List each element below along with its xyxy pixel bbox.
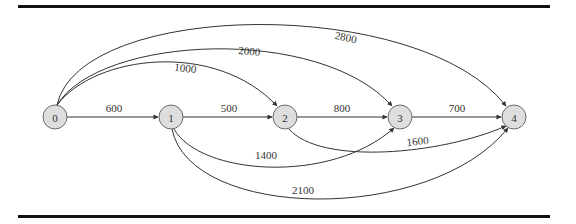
node-4: 4 [502,105,526,129]
edge-2-3: 800 [297,102,387,117]
edge-weight-label: 2800 [334,29,359,45]
edge-weight-label: 700 [449,102,466,114]
edge-weight-label: 1000 [174,61,198,75]
node-0: 0 [43,105,67,129]
edge-1-3: 1400 [174,128,394,167]
edge-0-4: 2800 [57,24,506,106]
edge-weight-label: 2100 [292,184,315,196]
edge-weight-label: 2000 [238,44,261,58]
graph-diagram: 600 500 800 700 1000 2000 2800 1400 1600… [0,0,576,224]
edge-weight-label: 1400 [255,149,278,161]
node-label: 1 [168,112,174,124]
edge-2-4: 1600 [289,126,506,152]
edge-0-2: 1000 [57,61,277,106]
edge-3-4: 700 [412,102,501,117]
edge-1-4: 2100 [172,128,508,199]
node-label: 0 [52,112,58,124]
edge-weight-label: 800 [334,102,351,114]
edge-0-1: 600 [67,102,158,117]
node-label: 4 [511,112,517,124]
edge-weight-label: 500 [221,102,238,114]
node-label: 3 [397,112,403,124]
edge-weight-label: 1600 [406,134,430,148]
edge-weight-label: 600 [106,102,123,114]
edge-0-3: 2000 [57,44,392,106]
node-2: 2 [273,105,297,129]
node-label: 2 [282,112,288,124]
node-1: 1 [159,105,183,129]
node-3: 3 [388,105,412,129]
edge-1-2: 500 [183,102,272,117]
